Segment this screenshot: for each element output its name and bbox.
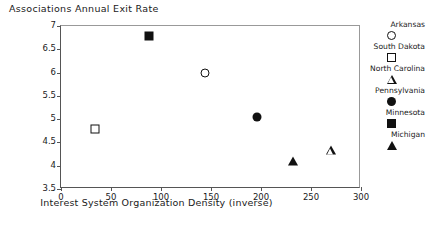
legend-circle-open-icon xyxy=(387,31,396,40)
legend-marker-row xyxy=(362,30,427,41)
legend-item-north-carolina[interactable]: North Carolina xyxy=(362,64,427,85)
y-tick-mark xyxy=(57,49,61,50)
legend-item-pennsylvania[interactable]: Pennsylvania xyxy=(362,86,427,107)
chart-legend: ArkansasSouth DakotaNorth CarolinaPennsy… xyxy=(362,20,427,152)
data-point-minnesota xyxy=(145,32,154,41)
legend-triangle-filled-icon xyxy=(387,141,397,150)
legend-marker-row xyxy=(362,140,427,151)
y-tick-label: 7 xyxy=(51,20,56,30)
legend-item-label: South Dakota xyxy=(362,42,427,52)
legend-triangle-open-icon xyxy=(387,75,397,84)
data-point-south-dakota xyxy=(91,125,100,134)
x-axis-label: Interest System Organization Density (in… xyxy=(0,197,427,208)
legend-item-label: Minnesota xyxy=(362,108,427,118)
legend-item-south-dakota[interactable]: South Dakota xyxy=(362,42,427,63)
legend-item-label: Pennsylvania xyxy=(362,86,427,96)
x-tick-mark xyxy=(211,187,212,191)
legend-square-open-icon xyxy=(387,53,396,62)
data-point-michigan xyxy=(288,157,298,166)
legend-item-label: Arkansas xyxy=(362,20,427,30)
data-point-north-carolina xyxy=(326,146,336,155)
y-tick-mark xyxy=(57,166,61,167)
x-tick-mark xyxy=(161,187,162,191)
legend-item-arkansas[interactable]: Arkansas xyxy=(362,20,427,41)
y-tick-label: 3.5 xyxy=(42,183,56,193)
data-point-arkansas xyxy=(201,68,210,77)
legend-marker-row xyxy=(362,96,427,107)
legend-marker-row xyxy=(362,74,427,85)
y-tick-mark xyxy=(57,96,61,97)
y-tick-mark xyxy=(57,119,61,120)
data-point-pennsylvania xyxy=(253,113,262,122)
legend-item-label: Michigan xyxy=(362,130,427,140)
data-point-layer xyxy=(61,26,359,35)
x-tick-mark xyxy=(111,187,112,191)
scatter-chart: Associations Annual Exit Rate 3.544.555.… xyxy=(0,0,427,230)
y-tick-label: 6.5 xyxy=(42,43,56,53)
x-tick-mark xyxy=(61,187,62,191)
legend-marker-row xyxy=(362,52,427,63)
legend-item-minnesota[interactable]: Minnesota xyxy=(362,108,427,129)
x-tick-mark xyxy=(261,187,262,191)
y-tick-label: 4.5 xyxy=(42,136,56,146)
legend-marker-row xyxy=(362,118,427,129)
y-tick-mark xyxy=(57,142,61,143)
plot-area: 3.544.555.566.57 050100150200250300 xyxy=(60,25,360,188)
x-axis-label-text: Interest System Organization Density (in… xyxy=(40,197,272,208)
chart-title: Associations Annual Exit Rate xyxy=(9,3,159,14)
y-tick-label: 5.5 xyxy=(42,90,56,100)
x-tick-mark xyxy=(311,187,312,191)
legend-item-michigan[interactable]: Michigan xyxy=(362,130,427,151)
y-tick-mark xyxy=(57,26,61,27)
y-tick-label: 6 xyxy=(51,67,56,77)
legend-circle-filled-icon xyxy=(387,97,396,106)
y-tick-mark xyxy=(57,73,61,74)
y-tick-label: 4 xyxy=(51,160,56,170)
legend-square-filled-icon xyxy=(387,119,396,128)
legend-item-label: North Carolina xyxy=(362,64,427,74)
y-tick-label: 5 xyxy=(51,113,56,123)
x-tick-mark xyxy=(361,187,362,191)
